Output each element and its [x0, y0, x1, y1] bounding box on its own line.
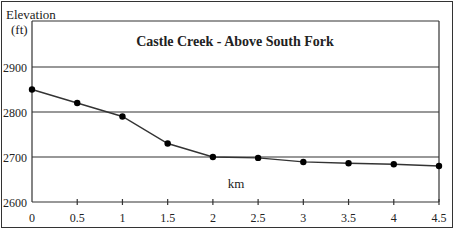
- chart-title: Castle Creek - Above South Fork: [136, 34, 334, 49]
- y-tick-label: 2800: [3, 106, 27, 120]
- data-point-marker: [300, 159, 306, 165]
- y-axis-label-line1: Elevation: [6, 7, 56, 22]
- x-axis-label: km: [228, 176, 245, 191]
- data-point-marker: [210, 154, 216, 160]
- x-tick-label: 0: [29, 211, 35, 225]
- data-point-marker: [345, 160, 351, 166]
- x-tick-label: 2.5: [251, 211, 266, 225]
- elevation-line-chart: Elevation (ft) Castle Creek - Above Sout…: [0, 0, 456, 231]
- x-tick-label: 3: [300, 211, 306, 225]
- data-point-marker: [74, 100, 80, 106]
- y-tick-label: 2900: [3, 61, 27, 75]
- x-tick-label: 1.5: [160, 211, 175, 225]
- x-tick-label: 2: [210, 211, 216, 225]
- x-tick-label: 4: [391, 211, 397, 225]
- y-tick-label: 2700: [3, 151, 27, 165]
- y-axis-label-line2: (ft): [11, 22, 28, 37]
- data-point-marker: [255, 155, 261, 161]
- data-point-marker: [119, 113, 125, 119]
- data-point-marker: [29, 86, 35, 92]
- series-line: [32, 90, 439, 167]
- x-tick-label: 1: [119, 211, 125, 225]
- data-point-marker: [436, 163, 442, 169]
- data-point-marker: [164, 140, 170, 146]
- gridlines: [32, 67, 439, 157]
- data-point-marker: [391, 161, 397, 167]
- tick-labels: 260027002800290000.511.522.533.544.5: [3, 61, 447, 226]
- y-tick-label: 2600: [3, 196, 27, 210]
- x-tick-label: 4.5: [432, 211, 447, 225]
- x-tick-label: 3.5: [341, 211, 356, 225]
- x-tick-label: 0.5: [70, 211, 85, 225]
